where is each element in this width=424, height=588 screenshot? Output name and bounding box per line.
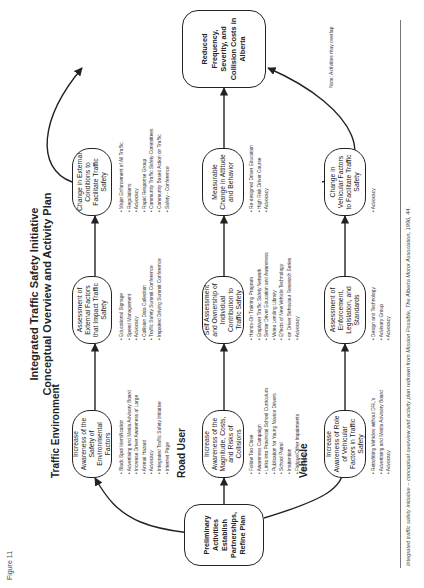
activity-list-ve1: Retrofitting Vehicles without DRL'sAdver… xyxy=(370,344,393,474)
activity-item: Community Traffic Safety Committees xyxy=(148,88,156,212)
activity-item: Rapid Response Group xyxy=(141,88,149,212)
activity-item: Inattention xyxy=(286,344,294,474)
activity-item: Educational Signage xyxy=(118,216,126,340)
activity-item: Animal Hazard xyxy=(141,344,149,474)
activity-item: Advocacy xyxy=(263,88,271,212)
activity-list-te2: Educational SignageSpeed ManagementAdvoc… xyxy=(118,216,164,340)
activity-item: Advertising and Media Advisory Board xyxy=(378,344,386,474)
activity-item: on Driver Behaviour Research Series xyxy=(286,216,294,340)
node-preliminary-activities: Preliminary Activities Establish Partner… xyxy=(184,504,264,566)
activity-item: Advisory Group xyxy=(378,216,386,340)
activity-item: Increase Driver Awareness of Large xyxy=(133,344,141,474)
node-ru-increase-awareness: Increase Awareness of the Magnitude, Cos… xyxy=(202,410,244,478)
activity-item: High Risk Driver Course xyxy=(256,88,264,212)
activity-item: Speed Management xyxy=(126,216,134,340)
activity-item: Major Enforcement of All Traffic xyxy=(118,88,126,212)
activity-item: Black Spot Identification xyxy=(118,344,126,474)
activity-item: Advocacy xyxy=(370,88,378,212)
activity-item: Community Based Action on Traffic xyxy=(156,88,164,212)
activity-list-ru2: Hands-On Training ProgramEmployer Traffi… xyxy=(248,216,301,340)
activity-item: Publication for Young Novice Drivers xyxy=(271,344,279,474)
activity-item: Safety - Conference xyxy=(164,88,172,212)
activity-item: Impaired Driving Summit Conference xyxy=(156,216,164,340)
activity-item: Effects of New Vehicle Technology xyxy=(278,216,286,340)
node-ve-assessment: Assessment of Enforcement, Legislation, … xyxy=(324,276,366,344)
figure-caption: Integrated traffic safety initiative – c… xyxy=(405,207,411,566)
node-te-increase-awareness: Increase Awareness of the Safety of Envi… xyxy=(72,410,112,478)
node-ru-measurable-change: Measurable Change in Attitude and Behavi… xyxy=(202,148,244,216)
row-label-traffic-environment: Traffic Environment xyxy=(50,384,61,478)
activity-list-te3: Major Enforcement of All TrafficRegulati… xyxy=(118,88,171,212)
note-activities-overlap: Note: Activities may overlap xyxy=(328,27,334,88)
diagram-page: Figure 11 Integrated Traffic Safety Init… xyxy=(0,0,424,588)
node-goal-reduced-collisions: Reduced Frequency, Severity, and Collisi… xyxy=(182,10,266,88)
activity-item: Advocacy xyxy=(148,344,156,474)
activity-list-ru3: Re-designed Driver EducationHigh Risk Dr… xyxy=(248,88,271,212)
activity-item: School Patrol xyxy=(278,344,286,474)
activity-item: Employer Traffic Safety Network xyxy=(256,216,264,340)
node-te-assessment: Assessment of External Factors that Impa… xyxy=(72,276,112,344)
activity-item: Fatigue/Other Impairments xyxy=(294,344,302,474)
activity-item: Regulations xyxy=(126,88,134,212)
node-te-change: Change in External Conditions to Facilit… xyxy=(72,148,112,216)
activity-item: Traffic Safety Summit Conference xyxy=(148,216,156,340)
activity-item: Video Lending Library xyxy=(271,216,279,340)
activity-item: Awareness Campaign xyxy=(256,344,264,474)
activity-item: Re-designed Driver Education xyxy=(248,88,256,212)
activity-item: Links into Provincial School Curriculum xyxy=(263,344,271,474)
node-ve-change: Change in Vehicular Factors to Facilitat… xyxy=(324,148,366,216)
activity-item: Design and Technology xyxy=(370,216,378,340)
activity-item: Hands-On Training Program xyxy=(248,216,256,340)
caption-divider xyxy=(400,20,401,568)
activity-list-te1: Black Spot IdentificationAdvertising and… xyxy=(118,344,171,474)
activity-item: Advocacy xyxy=(133,216,141,340)
activity-list-ru1: Follow Too CloseAwareness CampaignLinks … xyxy=(248,344,309,474)
node-ve-increase-awareness: Increase Awareness of Role of Vehicular … xyxy=(324,410,366,478)
row-label-road-user: Road User xyxy=(176,428,187,478)
activity-list-ve3: Advocacy xyxy=(370,88,378,212)
activity-item: Follow Too Close xyxy=(248,344,256,474)
activity-item: Advocacy xyxy=(385,216,393,340)
activity-item: Advertising and Media Advisory Board xyxy=(126,344,134,474)
activity-item: Advocacy xyxy=(301,344,309,474)
activity-item: Advocacy xyxy=(385,344,393,474)
activity-item: Retrofitting Vehicles without DRL's xyxy=(370,344,378,474)
activity-item: Senior Driver Education and Awareness xyxy=(263,216,271,340)
activity-item: Advocacy xyxy=(294,216,302,340)
activity-item: Internet Page xyxy=(164,344,172,474)
activity-item: Advocacy xyxy=(133,88,141,212)
activity-list-ve2: Design and TechnologyAdvisory GroupAdvoc… xyxy=(370,216,393,340)
activity-item: Integrated Traffic Safety Initiative xyxy=(156,344,164,474)
activity-item: Collision Data Collection xyxy=(141,216,149,340)
node-ru-self-assessment: Self Assessment and Ownership of Individ… xyxy=(202,276,244,344)
